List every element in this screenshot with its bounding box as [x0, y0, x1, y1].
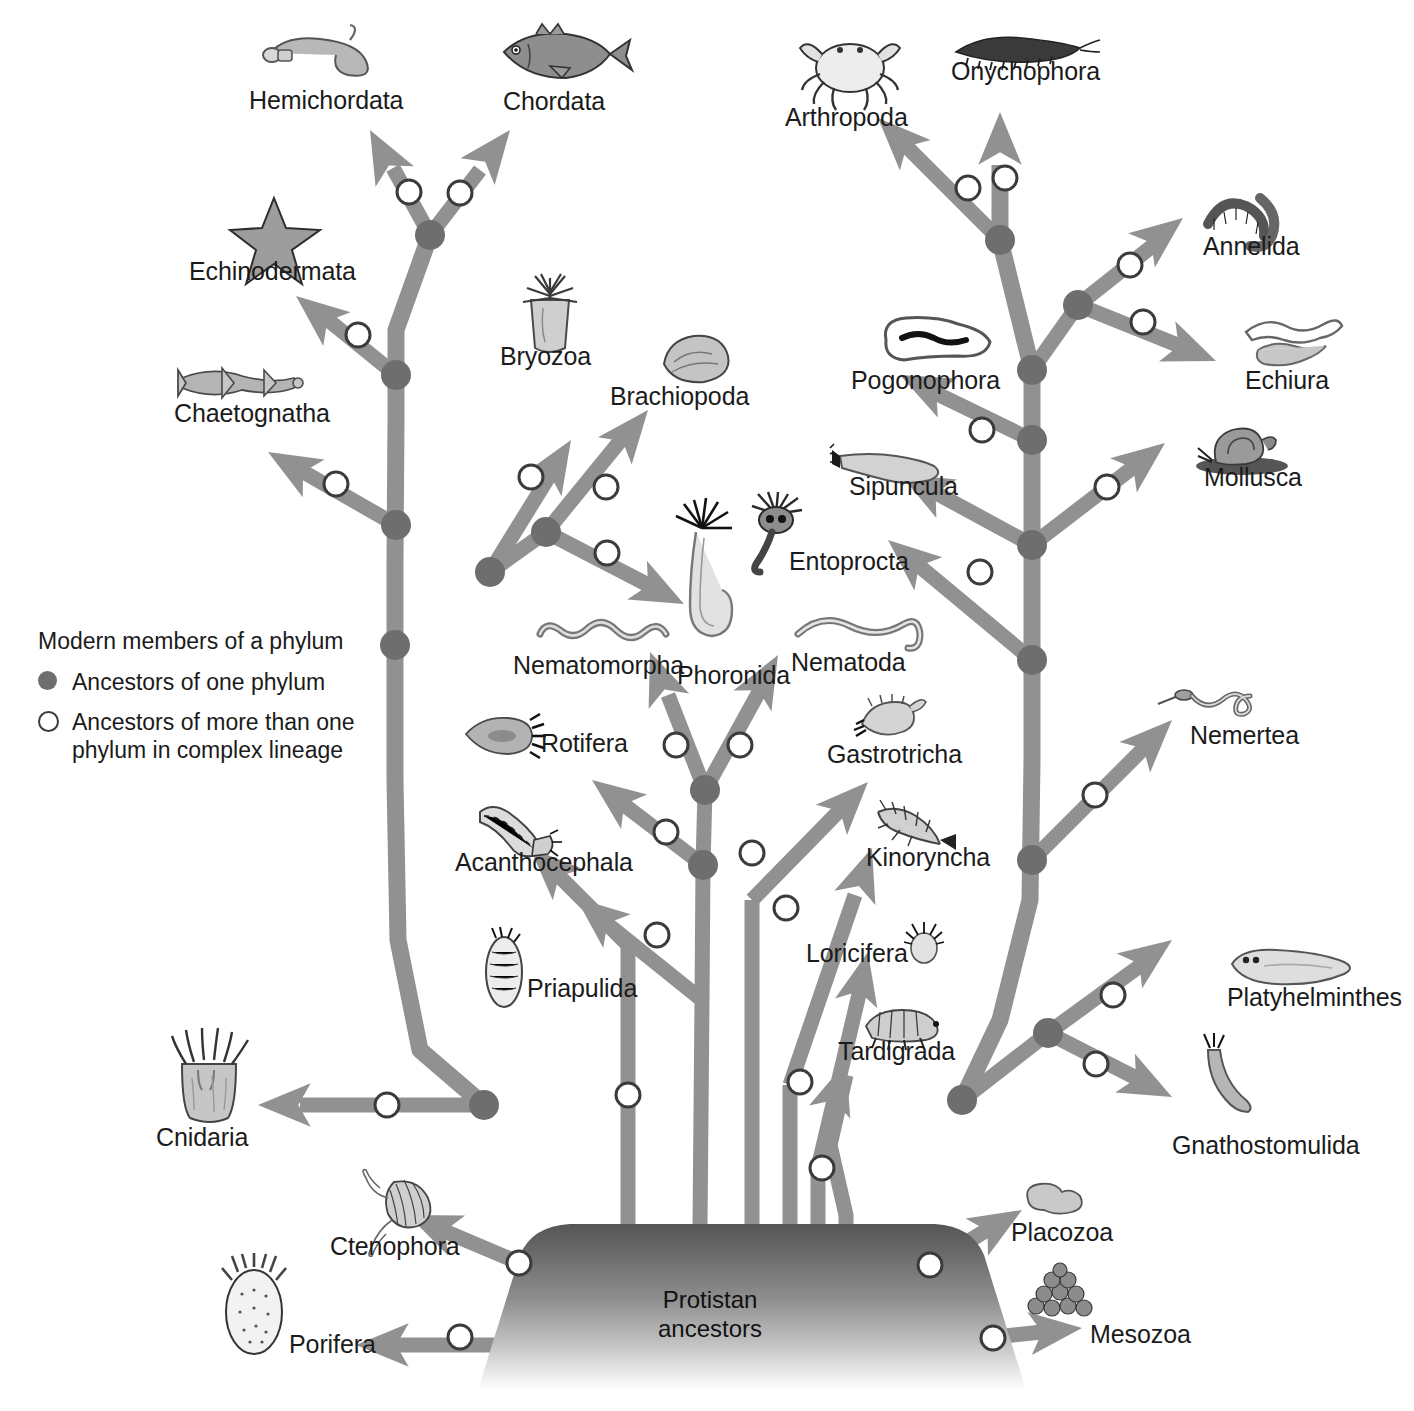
node-open [507, 1251, 531, 1275]
label-echiura: Echiura [1245, 366, 1329, 395]
node-open [728, 733, 752, 757]
label-pogonophora: Pogonophora [851, 366, 1000, 395]
legend-label-open-line1: Ancestors of more than one [72, 708, 355, 737]
node-open [375, 1093, 399, 1117]
label-echinodermata: Echinodermata [189, 257, 356, 286]
node-filled [381, 360, 411, 390]
horseshoe-worm-icon [676, 498, 732, 636]
jaw-worm-icon [1204, 1033, 1251, 1112]
label-cnidaria: Cnidaria [156, 1123, 248, 1152]
fish-icon [504, 24, 632, 78]
flatworm-icon [1232, 950, 1350, 985]
label-phoronida: Phoronida [677, 661, 790, 690]
node-open [810, 1156, 834, 1180]
label-chordata: Chordata [503, 87, 605, 116]
label-arthropoda: Arthropoda [785, 103, 908, 132]
node-filled [475, 557, 505, 587]
node-open [740, 841, 764, 865]
node-open [1101, 983, 1125, 1007]
label-onychophora: Onychophora [951, 57, 1100, 86]
node-open [788, 1070, 812, 1094]
lamp-shell-icon [664, 336, 729, 382]
spoon-worm-icon [1246, 320, 1342, 365]
node-filled [1017, 845, 1047, 875]
node-open [346, 323, 370, 347]
legend: Modern members of a phylum Ancestors of … [38, 628, 355, 776]
node-filled [1017, 530, 1047, 560]
legend-title: Modern members of a phylum [38, 628, 355, 655]
node-open [645, 923, 669, 947]
crab-icon [800, 44, 900, 110]
gastrotrich-icon [854, 694, 926, 736]
penis-worm-icon [486, 927, 522, 1007]
branch-left-trunk [395, 235, 484, 1105]
branch-platyhelminthes [1048, 960, 1148, 1033]
label-nematomorpha: Nematomorpha [513, 651, 684, 680]
arrowhead-phoronida [627, 561, 694, 624]
label-annelida: Annelida [1203, 232, 1300, 261]
protistan-label-line1: Protistan [620, 1285, 800, 1314]
node-open [968, 560, 992, 584]
node-filled [1063, 290, 1093, 320]
label-mesozoa: Mesozoa [1090, 1320, 1191, 1349]
label-platyhelminthes: Platyhelminthes [1227, 983, 1402, 1012]
node-open [397, 180, 421, 204]
node-open [448, 181, 472, 205]
label-entoprocta: Entoprocta [789, 547, 909, 576]
sponge-icon [222, 1253, 286, 1354]
legend-label-filled: Ancestors of one phylum [72, 668, 325, 697]
node-open [664, 733, 688, 757]
branch-mollusca [1032, 462, 1140, 545]
node-filled [1017, 645, 1047, 675]
label-mollusca: Mollusca [1204, 463, 1302, 492]
node-open [1095, 475, 1119, 499]
label-placozoa: Placozoa [1011, 1218, 1113, 1247]
label-acanthocephala: Acanthocephala [455, 848, 633, 877]
label-sipuncula: Sipuncula [849, 472, 958, 501]
label-ctenophora: Ctenophora [330, 1232, 460, 1261]
node-open [519, 465, 543, 489]
node-open [774, 896, 798, 920]
protistan-label-line2: ancestors [620, 1314, 800, 1343]
arrowhead-chaetognatha [257, 433, 324, 497]
legend-label-open-line2: phylum in complex lineage [72, 736, 355, 765]
legend-row-filled: Ancestors of one phylum [38, 668, 355, 697]
node-filled [1017, 355, 1047, 385]
node-open [956, 176, 980, 200]
protistan-ancestors-label: Protistan ancestors [620, 1285, 800, 1344]
label-priapulida: Priapulida [527, 974, 637, 1003]
node-filled [1017, 425, 1047, 455]
acorn-worm-icon [263, 25, 368, 76]
label-loricifera: Loricifera [806, 939, 908, 968]
node-filled [985, 225, 1015, 255]
node-filled [415, 220, 445, 250]
node-open [448, 1325, 472, 1349]
node-open [918, 1253, 942, 1277]
label-nematoda: Nematoda [791, 648, 906, 677]
node-open [654, 820, 678, 844]
legend-row-open: Ancestors of more than one phylum in com… [38, 708, 355, 765]
node-open [970, 418, 994, 442]
beard-worm-icon [885, 318, 990, 360]
loriciferan-icon [904, 922, 944, 963]
bryozoan-icon [523, 274, 577, 352]
node-filled [380, 630, 410, 660]
label-kinorhyncha: Kinoryncha [866, 843, 990, 872]
node-filled [690, 775, 720, 805]
sea-anemone-icon [172, 1028, 248, 1122]
node-open [981, 1326, 1005, 1350]
mesozoan-icon [1028, 1263, 1092, 1316]
label-porifera: Porifera [289, 1330, 376, 1359]
arrow-worm-icon [178, 368, 303, 398]
label-chaetognatha: Chaetognatha [174, 399, 330, 428]
rotifer-icon [466, 714, 546, 758]
node-filled [1033, 1018, 1063, 1048]
label-gastrotricha: Gastrotricha [827, 740, 962, 769]
node-open [1084, 1052, 1108, 1076]
arrowhead-echiura [1159, 321, 1224, 381]
node-filled [688, 850, 718, 880]
label-nemertea: Nemertea [1190, 721, 1299, 750]
node-open [594, 475, 618, 499]
node-open [1118, 253, 1142, 277]
arrowhead-onychophora [978, 112, 1021, 165]
